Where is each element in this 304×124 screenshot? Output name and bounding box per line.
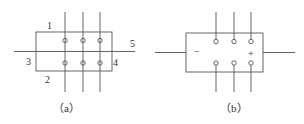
terminal-circle (232, 39, 236, 43)
terminal-circle (249, 39, 253, 43)
diagram-b (155, 12, 295, 92)
caption-a: （a） (53, 102, 80, 114)
caption-b: （b） (220, 102, 248, 114)
minus-sign: − (194, 46, 200, 57)
diagram-a (14, 12, 135, 92)
terminal-circle (232, 61, 236, 65)
label-4: 4 (113, 57, 118, 68)
terminal-circle (214, 61, 218, 65)
label-5: 5 (130, 38, 135, 49)
label-1: 1 (47, 20, 52, 31)
terminal-circle (214, 39, 218, 43)
plus-sign: + (248, 48, 254, 59)
figure-canvas: 1 5 3 4 2 （a） − + （b） (0, 0, 304, 124)
label-2: 2 (45, 74, 50, 85)
label-3: 3 (26, 56, 31, 67)
terminal-circle (249, 61, 253, 65)
